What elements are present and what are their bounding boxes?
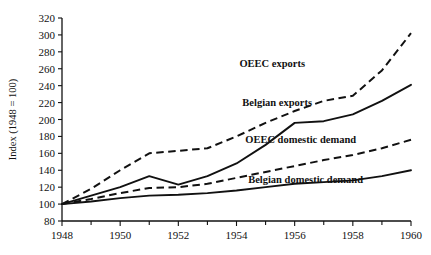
x-tick-label: 1956 [284,229,307,241]
y-tick-label: 180 [39,130,56,142]
x-axis: 1948195019521954195619581960 [51,221,423,241]
y-tick-label: 120 [39,181,56,193]
y-tick-label: 140 [39,164,56,176]
y-tick-label: 100 [39,198,56,210]
x-tick-label: 1950 [109,229,132,241]
x-tick-label: 1960 [400,229,423,241]
y-tick-label: 320 [39,12,56,24]
y-tick-label: 160 [39,147,56,159]
x-tick-label: 1952 [167,229,189,241]
series-line-oeec-domestic-demand [62,140,411,204]
y-tick-label: 240 [39,80,56,92]
series-labels: OEEC exportsBelgian exportsOEEC domestic… [239,58,363,185]
series-line-belgian-exports [62,85,411,204]
x-tick-label: 1948 [51,229,74,241]
y-axis-title: Index (1948 = 100) [7,78,19,160]
y-tick-label: 260 [39,63,56,75]
y-tick-label: 200 [39,114,56,126]
y-tick-label: 80 [44,215,56,227]
x-tick-label: 1954 [226,229,249,241]
series-label-belgian-exports: Belgian exports [242,97,312,108]
y-axis: 80100120140160180200220240260280300320 [39,12,63,227]
series-label-belgian-domestic-demand: Belgian domestic demand [248,174,363,185]
series-label-oeec-exports: OEEC exports [239,58,305,69]
line-chart-canvas: 80100120140160180200220240260280300320 1… [0,0,431,255]
y-tick-label: 280 [39,46,56,58]
y-tick-label: 300 [39,29,56,41]
y-tick-label: 220 [39,97,56,109]
series-label-oeec-domestic-demand: OEEC domestic demand [245,134,356,145]
x-tick-label: 1958 [342,229,365,241]
chart-figure: 80100120140160180200220240260280300320 1… [0,0,431,255]
y-axis-title-text: Index (1948 = 100) [7,78,19,160]
